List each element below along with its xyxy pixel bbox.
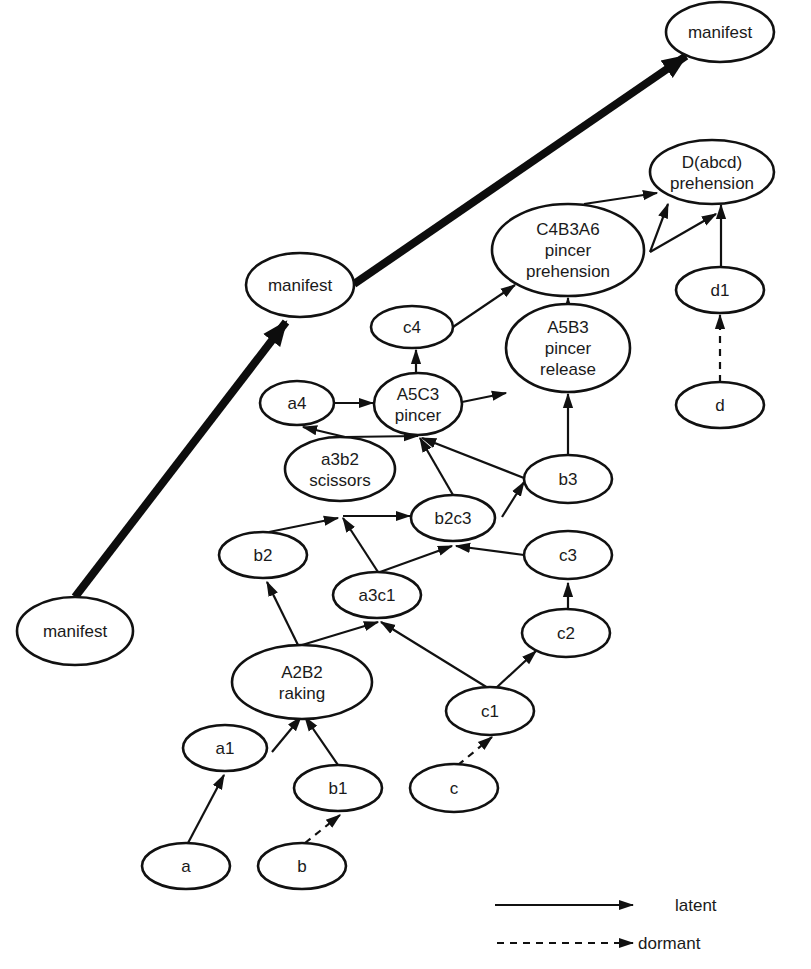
edge-latent-b3-to-A5C3 xyxy=(422,438,524,478)
node-Dabcd: D(abcd)prehension xyxy=(650,140,774,204)
node-label: c1 xyxy=(481,702,499,721)
edge-latent-a3c1-to-b2c3 xyxy=(380,546,452,572)
node-label: manifest xyxy=(688,23,753,42)
edge-dormant-b-to-b1 xyxy=(305,815,340,843)
node-label: d xyxy=(715,396,724,415)
edge-latent-b2-to-a3b2 xyxy=(269,518,338,532)
node-label: a xyxy=(181,857,191,876)
node-label: prehension xyxy=(670,174,754,193)
node-label: b1 xyxy=(329,779,348,798)
node-manifest_mid: manifest xyxy=(246,253,354,317)
edge-latent-C4B3A6-to-Dabcd xyxy=(650,204,668,252)
node-a: a xyxy=(142,843,230,889)
edge-latent-b1-to-A2B2 xyxy=(305,717,338,765)
node-label: raking xyxy=(279,684,325,703)
edge-latent-b2c3-to-A5C3 xyxy=(420,438,453,495)
node-ellipse xyxy=(232,645,372,719)
legend-latent-label: latent xyxy=(675,896,717,915)
edge-latent-a-to-a1 xyxy=(188,775,224,843)
node-label: A2B2 xyxy=(281,663,323,682)
node-label: a3c1 xyxy=(359,586,396,605)
edge-latent-a3c1-to-a3b2 xyxy=(343,518,378,572)
node-label: pincer xyxy=(395,406,442,425)
node-a4: a4 xyxy=(260,381,334,425)
node-label: pincer xyxy=(545,339,592,358)
node-label: a4 xyxy=(288,394,307,413)
node-a3b2: a3b2scissors xyxy=(285,437,395,501)
node-ellipse xyxy=(374,373,462,435)
node-c2: c2 xyxy=(522,609,610,657)
node-label: b3 xyxy=(559,470,578,489)
edges-layer xyxy=(75,56,721,843)
node-b2: b2 xyxy=(219,532,307,578)
edge-dormant-c-to-c1 xyxy=(458,737,492,765)
node-label: C4B3A6 xyxy=(536,220,599,239)
node-label: b2c3 xyxy=(435,509,472,528)
node-c3: c3 xyxy=(524,531,612,579)
node-d1: d1 xyxy=(676,267,764,313)
node-b3: b3 xyxy=(524,455,612,503)
node-c1: c1 xyxy=(446,687,534,735)
edge-latent-a3b2-to-a4 xyxy=(303,427,345,437)
edge-latent-a3b2-to-A5C3 xyxy=(345,436,418,437)
node-label: scissors xyxy=(309,471,370,490)
edge-latent-a1-to-A2B2 xyxy=(272,717,301,752)
node-label: manifest xyxy=(43,622,108,641)
node-c4: c4 xyxy=(371,306,453,348)
node-label: release xyxy=(540,360,596,379)
node-label: pincer xyxy=(545,241,592,260)
edge-latent-c1-to-c2 xyxy=(496,651,536,688)
node-label: manifest xyxy=(268,276,333,295)
edge-latent-A5C3-to-A5B3 xyxy=(462,393,506,402)
node-label: c2 xyxy=(557,624,575,643)
edge-latent-c3-to-b2c3 xyxy=(456,546,524,555)
node-b2c3: b2c3 xyxy=(411,495,495,541)
legend: latent dormant xyxy=(495,896,717,953)
node-label: a1 xyxy=(216,739,235,758)
node-A5B3: A5B3pincerrelease xyxy=(506,304,630,392)
node-b1: b1 xyxy=(294,765,382,811)
node-label: a3b2 xyxy=(321,450,359,469)
node-c: c xyxy=(410,764,498,812)
node-label: c4 xyxy=(403,318,421,337)
node-A5C3: A5C3pincer xyxy=(374,373,462,435)
node-label: D(abcd) xyxy=(682,153,742,172)
node-C4B3A6: C4B3A6pincerprehension xyxy=(492,204,644,296)
node-label: b xyxy=(297,857,306,876)
edge-latent-c4-to-C4B3A6 xyxy=(453,285,515,327)
edge-latent-A2B2-to-a3c1 xyxy=(302,622,378,645)
node-label: A5B3 xyxy=(547,318,589,337)
node-label: prehension xyxy=(526,262,610,281)
node-label: d1 xyxy=(711,281,730,300)
edge-latent-A2B2-to-b2 xyxy=(267,582,298,645)
node-a1: a1 xyxy=(183,725,267,771)
node-label: c xyxy=(450,779,459,798)
node-ellipse xyxy=(650,140,774,204)
legend-item-latent: latent xyxy=(495,896,717,915)
node-ellipse xyxy=(285,437,395,501)
edge-latent-b2c3-to-b3 xyxy=(502,482,524,517)
node-manifest_left: manifest xyxy=(17,597,133,665)
node-label: c3 xyxy=(559,546,577,565)
nodes-layer: manifestD(abcd)prehensionmanifestC4B3A6p… xyxy=(17,2,774,889)
node-a3c1: a3c1 xyxy=(333,572,421,618)
legend-item-dormant: dormant xyxy=(497,934,701,953)
node-label: A5C3 xyxy=(397,385,440,404)
edge-latent-c1-to-a3c1 xyxy=(381,622,488,688)
node-label: b2 xyxy=(254,546,273,565)
node-A2B2: A2B2raking xyxy=(232,645,372,719)
node-d: d xyxy=(676,382,764,428)
edge-latent-C4B3A6-to-Dabcd xyxy=(584,193,657,204)
edge-latent-C4B3A6-to-Dabcd xyxy=(650,214,716,252)
legend-dormant-label: dormant xyxy=(638,934,701,953)
node-b: b xyxy=(258,843,346,889)
diagram-canvas: manifestD(abcd)prehensionmanifestC4B3A6p… xyxy=(0,0,811,969)
node-manifest_top: manifest xyxy=(666,2,774,62)
